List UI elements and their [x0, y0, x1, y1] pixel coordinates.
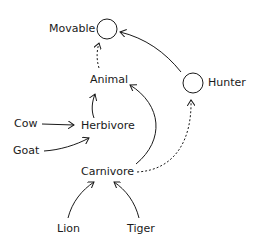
class-hierarchy-diagram: Movable Hunter Animal Herbivore Carnivor… — [0, 0, 254, 251]
node-movable: Movable — [49, 23, 95, 35]
edge-goat-herbivore — [44, 138, 89, 151]
edge-cow-herbivore — [42, 124, 74, 125]
node-herbivore: Herbivore — [81, 120, 135, 132]
edge-herbivore-animal — [92, 94, 95, 118]
node-hunter: Hunter — [208, 77, 246, 89]
edge-hunter-movable — [120, 32, 181, 72]
node-carnivore: Carnivore — [81, 166, 134, 178]
node-cow: Cow — [14, 118, 37, 130]
edge-tiger-carnivore — [114, 182, 139, 218]
node-goat: Goat — [13, 145, 39, 157]
edge-lion-carnivore — [68, 182, 94, 218]
edge-carnivore-hunter — [137, 100, 191, 172]
node-animal: Animal — [90, 74, 128, 86]
hunter-interface-icon — [183, 73, 203, 93]
node-lion: Lion — [57, 223, 80, 235]
movable-interface-icon — [97, 19, 117, 39]
node-tiger: Tiger — [127, 223, 155, 235]
edge-animal-movable — [97, 43, 99, 68]
